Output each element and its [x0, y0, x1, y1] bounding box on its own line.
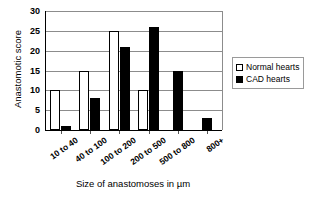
legend: Normal heartsCAD hearts	[232, 57, 304, 89]
bar-group	[163, 11, 192, 130]
plot-area	[45, 11, 222, 131]
bar-cad-hearts	[120, 47, 130, 130]
bar-cad-hearts	[202, 118, 212, 130]
bar-group	[75, 11, 104, 130]
legend-label: Normal hearts	[246, 62, 299, 72]
y-axis-tick-30: 30	[18, 6, 40, 16]
open-square-icon	[236, 64, 243, 71]
x-axis-tick-mark	[90, 131, 91, 134]
y-axis-tick-10: 10	[18, 85, 40, 95]
plot-frame-right	[222, 11, 223, 130]
x-axis-tick-mark	[207, 131, 208, 134]
y-axis-tick-0: 0	[18, 125, 40, 135]
bar-group	[46, 11, 75, 130]
legend-item: CAD hearts	[236, 73, 299, 85]
x-axis-tick-mark	[61, 131, 62, 134]
filled-square-icon	[236, 76, 243, 83]
legend-item: Normal hearts	[236, 61, 299, 73]
bar-group	[134, 11, 163, 130]
bar-cad-hearts	[149, 27, 159, 130]
bar-normal-hearts	[50, 90, 60, 130]
anastomotic-score-bar-chart: Anastomotic score 051015202530 10 to 404…	[0, 0, 317, 197]
bar-normal-hearts	[138, 90, 148, 130]
bar-group	[105, 11, 134, 130]
y-axis-tick-5: 5	[18, 105, 40, 115]
bar-normal-hearts	[79, 71, 89, 131]
y-axis-tick-labels: 051015202530	[18, 11, 40, 130]
y-axis-tick-25: 25	[18, 26, 40, 36]
bar-group	[193, 11, 222, 130]
y-axis-tick-15: 15	[18, 66, 40, 76]
y-axis-tick-20: 20	[18, 46, 40, 56]
x-axis-tick-mark	[119, 131, 120, 134]
bar-cad-hearts	[61, 126, 71, 130]
bar-cad-hearts	[90, 98, 100, 130]
x-axis-tick-mark	[149, 131, 150, 134]
x-axis-tick-mark	[178, 131, 179, 134]
bar-cad-hearts	[173, 71, 183, 131]
bar-groups	[46, 11, 222, 130]
x-axis-tick-label: 800+	[205, 135, 226, 154]
legend-label: CAD hearts	[246, 74, 290, 84]
x-axis-title: Size of anastomoses in µm	[45, 178, 221, 189]
bar-normal-hearts	[109, 31, 119, 130]
